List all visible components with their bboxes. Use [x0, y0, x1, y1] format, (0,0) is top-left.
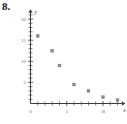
data-point-marker	[73, 83, 76, 86]
y-axis-arrow	[28, 9, 32, 13]
data-point-marker	[116, 99, 119, 102]
axes-group	[28, 9, 125, 105]
ticks-group	[28, 15, 118, 106]
data-point-marker	[87, 89, 90, 92]
scatter-plot-figure: 8. 05105101520 xy	[0, 0, 126, 124]
x-axis-arrow	[122, 101, 126, 105]
data-points-group	[36, 35, 119, 102]
data-point-marker	[36, 35, 39, 38]
y-tick-label: 10	[21, 59, 25, 64]
data-point-marker	[102, 96, 105, 99]
x-tick-label: 0	[29, 109, 31, 114]
x-axis-name-label: x	[122, 107, 126, 113]
data-point-marker	[51, 49, 54, 52]
plot-canvas: 05105101520 xy	[0, 0, 126, 124]
y-tick-label: 15	[21, 38, 25, 43]
axis-names-group: xy	[34, 9, 127, 113]
data-point-marker	[58, 64, 61, 67]
x-tick-label: 5	[66, 109, 68, 114]
x-tick-label: 10	[101, 109, 105, 114]
y-tick-label: 5	[23, 80, 25, 85]
tick-labels-group: 05105101520	[21, 17, 105, 114]
y-axis-name-label: y	[34, 9, 38, 15]
y-tick-label: 20	[21, 17, 25, 22]
